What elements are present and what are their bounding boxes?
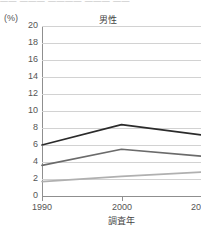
y-tick-label-6: 6 <box>2 140 38 149</box>
y-tick-label-2: 2 <box>2 174 38 183</box>
line-series-3 <box>42 172 201 181</box>
x-tick-label-2000: 2000 <box>102 202 142 212</box>
line-series-1 <box>42 125 201 145</box>
y-tick-label-14: 14 <box>2 72 38 81</box>
y-tick-label-18: 18 <box>2 38 38 47</box>
y-tick-label-4: 4 <box>2 157 38 166</box>
bleed-text: —— ——— ———— ——— —— <box>0 0 201 5</box>
data-series-layer <box>42 26 201 196</box>
x-tick-1990 <box>42 197 43 201</box>
x-tick-label-1990: 1990 <box>22 202 62 212</box>
y-tick-label-0: 0 <box>2 191 38 200</box>
chart-container: —— ——— ———— ——— —— (%) 男性 20181614121086… <box>0 0 201 229</box>
y-tick-label-12: 12 <box>2 89 38 98</box>
x-tick-2000 <box>122 197 123 201</box>
y-tick-label-10: 10 <box>2 106 38 115</box>
plot-area <box>42 26 201 196</box>
x-tick-label-2010: 2010 <box>181 202 201 212</box>
y-tick-label-16: 16 <box>2 55 38 64</box>
x-axis-title: 調査年 <box>42 214 201 227</box>
line-series-2 <box>42 149 201 165</box>
y-tick-label-20: 20 <box>2 21 38 30</box>
page-bleed-text: —— ——— ———— ——— —— <box>0 0 201 9</box>
y-tick-label-8: 8 <box>2 123 38 132</box>
